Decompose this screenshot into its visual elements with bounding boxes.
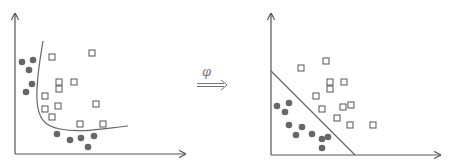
circle-point [23, 89, 30, 96]
left-square-points [42, 50, 106, 127]
square-point [42, 93, 48, 99]
square-point [313, 93, 319, 99]
square-point [347, 122, 353, 128]
circle-point [29, 81, 36, 88]
square-point [89, 50, 95, 56]
mapping-arrow [197, 80, 227, 90]
circle-point [319, 145, 326, 152]
circle-point [286, 122, 293, 129]
circle-point [293, 132, 300, 139]
circle-point [319, 136, 326, 143]
circle-point [299, 124, 306, 131]
circle-point [78, 135, 85, 142]
square-point [56, 79, 62, 85]
circle-point [282, 109, 289, 116]
circle-point [325, 134, 332, 141]
circle-point [91, 133, 98, 140]
kernel-mapping-diagram [0, 0, 460, 168]
square-point [327, 79, 333, 85]
square-point [49, 114, 55, 120]
circle-point [30, 57, 37, 64]
square-point [370, 122, 376, 128]
circle-point [26, 67, 33, 74]
circle-point [309, 131, 316, 138]
square-point [77, 121, 83, 127]
circle-point [54, 131, 61, 138]
circle-point [85, 144, 92, 151]
circle-point [274, 103, 281, 110]
right-square-points [298, 58, 376, 128]
square-point [298, 65, 304, 71]
circle-point [19, 59, 26, 66]
left-plot-axes [15, 14, 185, 154]
square-point [93, 101, 99, 107]
square-point [42, 106, 48, 112]
circle-point [286, 100, 293, 107]
square-point [71, 79, 77, 85]
square-point [319, 106, 325, 112]
circle-point [67, 137, 74, 144]
square-point [327, 86, 333, 92]
square-point [323, 58, 329, 64]
phi-mapping-label: φ [202, 64, 211, 79]
square-point [348, 102, 354, 108]
square-point [49, 54, 55, 60]
square-point [334, 115, 340, 121]
square-point [56, 86, 62, 92]
square-point [340, 104, 346, 110]
square-point [100, 121, 106, 127]
square-point [341, 79, 347, 85]
square-point [55, 103, 61, 109]
